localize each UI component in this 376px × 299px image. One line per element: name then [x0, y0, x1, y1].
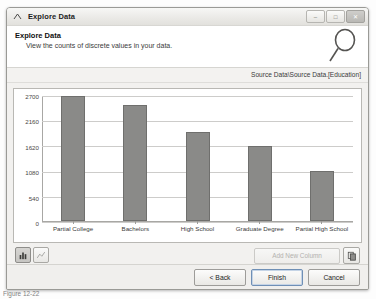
explore-data-dialog: Explore Data – □ ✕ Explore Data View the… — [6, 7, 369, 290]
dialog-body: 05401080162021602700 Partial CollegeBach… — [7, 83, 368, 268]
y-axis-tick-label: 540 — [29, 194, 39, 201]
chart-panel: 05401080162021602700 Partial CollegeBach… — [13, 88, 362, 243]
source-path-text: Source Data\Source Data.[Education] — [251, 71, 361, 78]
dialog-header: Explore Data View the counts of discrete… — [7, 26, 368, 68]
x-axis-tick — [135, 221, 136, 224]
dialog-footer: < Back Finish Cancel — [7, 264, 368, 289]
source-path-bar: Source Data\Source Data.[Education] — [7, 68, 368, 83]
copy-glyph — [347, 251, 357, 261]
bar-group: High School — [166, 96, 228, 221]
x-axis-tick — [321, 221, 322, 224]
bar[interactable] — [248, 146, 272, 221]
header-title: Explore Data — [15, 31, 61, 40]
explore-chevron-icon — [12, 11, 25, 22]
minimize-button[interactable]: – — [306, 10, 325, 23]
header-subtitle: View the counts of discrete values in yo… — [26, 42, 172, 49]
bar[interactable] — [310, 171, 334, 221]
close-button[interactable]: ✕ — [346, 10, 365, 23]
y-axis-tick-label: 0 — [36, 220, 39, 227]
screenshot-root: Explore Data – □ ✕ Explore Data View the… — [0, 0, 376, 299]
bar-group: Graduate Degree — [229, 96, 291, 221]
bar-group: Bachelors — [104, 96, 166, 221]
window-title: Explore Data — [28, 12, 75, 21]
x-axis-tick — [197, 221, 198, 224]
finish-button[interactable]: Finish — [251, 269, 303, 286]
chart-plot-area: 05401080162021602700 Partial CollegeBach… — [42, 96, 353, 222]
bar-group: Partial College — [42, 96, 104, 221]
maximize-button[interactable]: □ — [326, 10, 345, 23]
title-bar: Explore Data – □ ✕ — [7, 8, 368, 26]
y-axis-tick-label: 2160 — [25, 118, 39, 125]
x-axis-tick-label: High School — [181, 225, 214, 232]
bar[interactable] — [61, 96, 85, 221]
magnifier-icon — [326, 28, 360, 65]
y-axis-tick-label: 1080 — [25, 169, 39, 176]
x-axis-tick-label: Bachelors — [122, 225, 150, 232]
x-axis-tick-label: Partial High School — [296, 225, 349, 232]
chart-actions: Add New Column — [254, 247, 360, 264]
y-axis-tick-label: 1620 — [25, 143, 39, 150]
bar[interactable] — [123, 105, 147, 221]
add-new-column-button[interactable]: Add New Column — [254, 248, 340, 264]
bar-group: Partial High School — [291, 96, 353, 221]
x-axis-tick — [73, 221, 74, 224]
y-axis-tick-label: 2700 — [25, 93, 39, 100]
line-chart-icon[interactable] — [33, 247, 49, 263]
figure-caption: Figure 12-22 — [3, 290, 153, 299]
window-controls: – □ ✕ — [306, 10, 365, 23]
bar[interactable] — [186, 132, 210, 221]
bar-series: Partial CollegeBachelorsHigh SchoolGradu… — [42, 96, 353, 221]
x-axis-tick-label: Partial College — [53, 225, 93, 232]
x-axis-tick-label: Graduate Degree — [236, 225, 284, 232]
line-chart-glyph — [36, 250, 46, 260]
bar-chart-glyph — [18, 250, 28, 260]
figure-caption-text: Figure 12-22 — [3, 290, 39, 297]
bar-chart-icon[interactable] — [15, 247, 31, 263]
cancel-button[interactable]: Cancel — [308, 269, 360, 286]
copy-icon[interactable] — [343, 247, 360, 264]
chart-view-toggles — [15, 247, 49, 263]
back-button[interactable]: < Back — [194, 269, 246, 286]
x-axis-tick — [259, 221, 260, 224]
